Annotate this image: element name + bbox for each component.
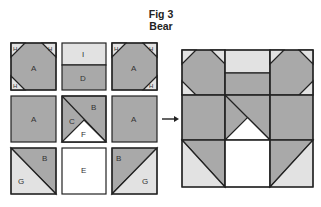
svg-text:H: H	[13, 46, 17, 52]
arrow-right-icon	[162, 116, 179, 122]
svg-text:H: H	[48, 46, 52, 52]
svg-text:A: A	[31, 115, 37, 124]
svg-text:A: A	[131, 115, 137, 124]
svg-text:B: B	[42, 154, 47, 163]
svg-text:A: A	[131, 64, 137, 73]
svg-text:H: H	[149, 83, 153, 89]
svg-text:C: C	[69, 117, 75, 126]
svg-text:A: A	[31, 64, 37, 73]
svg-text:H: H	[13, 83, 17, 89]
svg-text:F: F	[81, 130, 86, 139]
svg-text:H: H	[114, 46, 118, 52]
assembled-bear-block	[182, 50, 313, 187]
svg-text:B: B	[116, 154, 121, 163]
svg-text:G: G	[18, 177, 24, 186]
unit-bottom-left	[11, 148, 56, 194]
svg-text:G: G	[142, 177, 148, 186]
quilt-diagram: H H H A I D H H H A A B C F A B G E B G	[0, 0, 321, 207]
svg-text:E: E	[81, 166, 86, 175]
svg-text:I: I	[82, 50, 84, 59]
svg-text:B: B	[91, 103, 96, 112]
svg-text:H: H	[149, 46, 153, 52]
svg-text:D: D	[80, 74, 86, 83]
